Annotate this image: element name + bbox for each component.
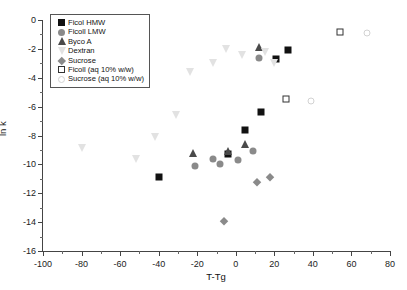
data-point [250,148,257,155]
data-point [172,111,180,119]
data-point [253,178,261,186]
data-point [363,29,370,36]
x-tick-minor [332,251,333,254]
x-tick-minor [217,251,218,254]
legend-item[interactable]: Sucrose [55,56,144,65]
y-tick [38,78,43,79]
filled-diamond-icon [55,58,68,64]
y-tick-label: -6 [28,102,36,112]
legend-item[interactable]: Ficoll (aq 10% w/w) [55,65,144,74]
y-tick-label: -14 [23,217,36,227]
data-point [220,217,228,225]
x-tick [236,251,237,256]
data-point [186,68,194,76]
data-point [307,97,314,104]
x-tick-label: -60 [114,259,127,269]
y-tick-label: -4 [28,73,36,83]
y-tick-minor [40,63,43,64]
data-point [238,51,246,59]
x-tick [159,251,160,256]
x-tick [197,251,198,256]
x-tick-minor [178,251,179,254]
x-tick-minor [101,251,102,254]
y-tick-label: -10 [23,159,36,169]
filled-circle-icon [55,29,68,36]
data-point [282,96,289,103]
data-point [284,47,291,54]
legend-item[interactable]: Dextran [55,46,144,55]
data-point [257,109,264,116]
filled-triangle-down-icon [55,47,68,55]
y-tick-minor [40,179,43,180]
y-axis-title: ln k [0,121,8,136]
y-tick-label: -16 [23,246,36,256]
legend-label: Ficol HMW [68,18,105,27]
x-tick-label: 60 [346,259,356,269]
y-tick [38,222,43,223]
x-tick-label: 0 [233,259,238,269]
y-tick-minor [40,34,43,35]
filled-triangle-up-icon [55,37,68,45]
x-tick-label: -20 [191,259,204,269]
x-tick [82,251,83,256]
legend-item[interactable]: Ficoll LMW [55,27,144,36]
data-point [209,59,217,67]
legend-label: Ficoll (aq 10% w/w) [68,65,134,74]
data-point [132,155,140,163]
y-tick-minor [40,121,43,122]
x-tick-label: 40 [308,259,318,269]
y-tick-minor [40,92,43,93]
x-tick-minor [371,251,372,254]
y-tick-label: -8 [28,131,36,141]
data-point [241,140,249,148]
legend-label: Ficoll LMW [68,27,106,36]
x-tick [274,251,275,256]
x-tick-minor [294,251,295,254]
data-point [151,133,159,141]
data-point [261,48,269,56]
y-tick-minor [40,208,43,209]
legend-label: Sucrose [68,56,96,65]
data-point [224,147,232,155]
data-point [217,161,224,168]
legend-item[interactable]: Sucrose (aq 10% w/w) [55,74,144,83]
legend-item[interactable]: Ficol HMW [55,18,144,27]
y-tick-minor [40,150,43,151]
legend-item[interactable]: Byco A [55,37,144,46]
y-tick [38,107,43,108]
data-point [189,149,197,157]
data-point [336,28,343,35]
y-tick [38,136,43,137]
x-tick-minor [255,251,256,254]
y-tick [38,164,43,165]
data-point [242,126,249,133]
open-circle-icon [55,76,68,83]
y-tick [38,193,43,194]
x-tick-label: -40 [152,259,165,269]
data-point [192,162,199,169]
legend: Ficol HMWFicoll LMWByco ADextranSucroseF… [50,14,150,88]
x-tick-label: -100 [34,259,52,269]
x-tick-label: 80 [385,259,395,269]
y-tick-label: -12 [23,188,36,198]
x-tick [313,251,314,256]
data-point [209,155,216,162]
x-tick [390,251,391,256]
x-tick-minor [62,251,63,254]
filled-square-icon [55,19,68,26]
data-point [155,174,162,181]
y-tick-label: 0 [31,15,36,25]
x-tick-label: 20 [269,259,279,269]
x-tick [43,251,44,256]
legend-label: Dextran [68,46,95,55]
data-point [267,173,275,181]
x-tick [120,251,121,256]
x-tick-minor [139,251,140,254]
open-square-icon [55,66,68,73]
data-point [78,144,86,152]
y-tick [38,20,43,21]
x-tick [351,251,352,256]
data-point [270,59,278,67]
y-tick-label: -2 [28,44,36,54]
x-axis-title: T-Tg [42,271,390,282]
